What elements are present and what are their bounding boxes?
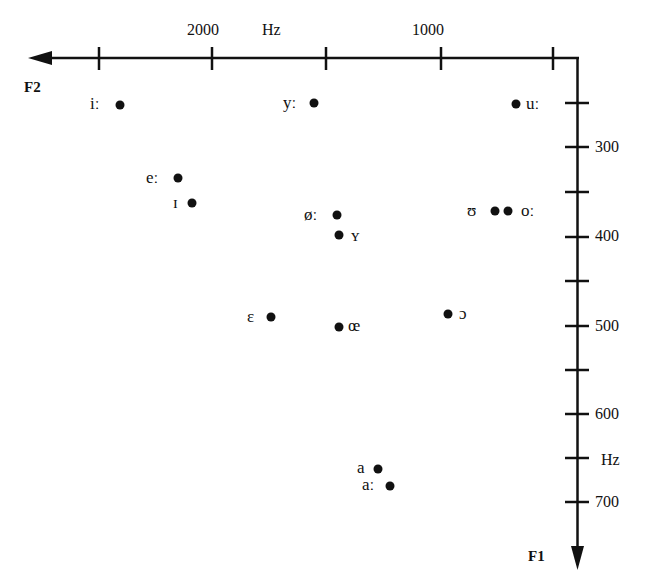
point-a xyxy=(374,465,383,474)
point-small-y xyxy=(335,231,344,240)
vowel-label-e-long: eː xyxy=(146,169,158,186)
f2-axis-name: F2 xyxy=(24,80,41,95)
point-upsilon xyxy=(491,207,500,216)
point-i-long xyxy=(116,101,125,110)
vowel-label-o-long: oː xyxy=(521,202,534,219)
y-tick-300: 300 xyxy=(595,139,619,155)
vowel-label-a: a xyxy=(357,459,365,476)
vowel-label-o-slash-long: øː xyxy=(304,206,317,223)
point-open-o xyxy=(444,310,453,319)
point-epsilon xyxy=(267,313,276,322)
f1-axis-name: F1 xyxy=(528,549,545,564)
vowel-label-u-long: uː xyxy=(526,95,539,112)
vowel-label-upsilon: ʊ xyxy=(467,202,476,219)
point-a-long xyxy=(386,482,395,491)
vowel-points xyxy=(116,99,521,491)
x-tick-2000: 2000 xyxy=(187,22,219,38)
vowel-label-y-long: yː xyxy=(283,94,296,111)
y-tick-700: 700 xyxy=(595,494,619,510)
y-unit-label: Hz xyxy=(601,452,620,468)
point-y-long xyxy=(310,99,319,108)
vowel-label-i-long: iː xyxy=(90,95,99,112)
vowel-label-small-i: ɪ xyxy=(173,194,178,211)
f2-arrow-icon xyxy=(28,51,52,65)
point-o-long xyxy=(504,207,513,216)
x-tick-1000: 1000 xyxy=(412,22,444,38)
point-u-long xyxy=(512,100,521,109)
point-small-i xyxy=(188,199,197,208)
y-tick-600: 600 xyxy=(595,406,619,422)
point-o-slash-long xyxy=(333,211,342,220)
vowel-formant-chart xyxy=(0,0,651,586)
f1-arrow-icon xyxy=(571,546,584,570)
point-e-long xyxy=(174,174,183,183)
vowel-label-oe: œ xyxy=(348,317,360,334)
point-oe xyxy=(335,323,344,332)
vowel-label-epsilon: ɛ xyxy=(247,308,254,325)
vowel-label-a-long: aː xyxy=(362,476,374,493)
vowel-label-small-y: ʏ xyxy=(351,227,359,244)
y-tick-400: 400 xyxy=(595,228,619,244)
y-tick-500: 500 xyxy=(595,318,619,334)
vowel-label-open-o: ɔ xyxy=(459,305,467,322)
x-unit-label: Hz xyxy=(262,22,281,38)
